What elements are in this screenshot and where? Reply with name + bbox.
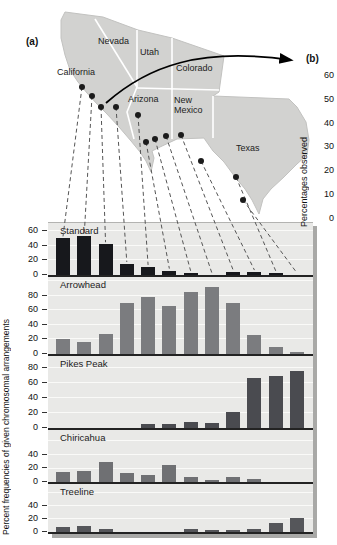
y-tick-mark bbox=[42, 338, 47, 339]
site-dot bbox=[135, 112, 141, 118]
bar bbox=[56, 339, 70, 354]
panel-separator bbox=[48, 275, 313, 277]
bar bbox=[247, 378, 261, 428]
y-tick-mark bbox=[42, 412, 47, 413]
panel-chiricahua: Chiricahua bbox=[48, 430, 313, 482]
bar bbox=[99, 334, 113, 354]
bar bbox=[226, 412, 240, 429]
bar bbox=[77, 236, 91, 275]
right-axis-tick: 30 bbox=[314, 141, 334, 151]
gridline bbox=[48, 505, 313, 506]
bar bbox=[120, 264, 134, 275]
y-tick-mark bbox=[42, 531, 47, 532]
y-tick-mark bbox=[42, 481, 47, 482]
gridline bbox=[48, 518, 313, 519]
state-label-colorado: Colorado bbox=[176, 63, 213, 73]
panel-separator bbox=[48, 482, 313, 484]
y-tick-mark bbox=[42, 230, 47, 231]
gridline bbox=[48, 295, 313, 296]
bar bbox=[120, 303, 134, 354]
panel-treeline: Treeline bbox=[48, 484, 313, 532]
bar bbox=[56, 238, 70, 275]
bar bbox=[269, 376, 283, 429]
dashed-connector bbox=[84, 96, 92, 234]
y-tick-mark bbox=[42, 274, 47, 275]
panel-title-arrowhead: Arrowhead bbox=[60, 279, 106, 290]
panel-title-treeline: Treeline bbox=[60, 486, 94, 497]
chart-block: StandardArrowheadPikes PeakChiricahuaTre… bbox=[0, 222, 337, 545]
panel-b-label: (b) bbox=[306, 53, 319, 64]
bar bbox=[120, 473, 134, 482]
bar-panels: StandardArrowheadPikes PeakChiricahuaTre… bbox=[48, 222, 313, 534]
gridline bbox=[48, 324, 313, 325]
bar bbox=[99, 244, 113, 275]
gridline bbox=[48, 454, 313, 455]
site-dot bbox=[240, 197, 246, 203]
y-tick-mark bbox=[42, 245, 47, 246]
y-tick-mark bbox=[42, 397, 47, 398]
panel-pikes-peak: Pikes Peak bbox=[48, 356, 313, 428]
panel-title-pikes-peak: Pikes Peak bbox=[60, 358, 108, 369]
y-tick-mark bbox=[42, 295, 47, 296]
figure: CaliforniaNevadaUtahColoradoArizonaNew M… bbox=[0, 0, 337, 545]
bar bbox=[141, 475, 155, 482]
panel-separator bbox=[48, 532, 313, 534]
bar bbox=[269, 347, 283, 354]
bar bbox=[162, 465, 176, 482]
state-label-nevada: Nevada bbox=[98, 36, 129, 46]
left-axis-title-text: Percent frequencies of given chromosomal… bbox=[1, 319, 11, 535]
state-label-california: California bbox=[57, 67, 95, 77]
site-dot bbox=[163, 133, 169, 139]
right-axis-tick: 0 bbox=[314, 213, 334, 223]
state-label-arizona: Arizona bbox=[128, 94, 159, 104]
panel-title-standard: Standard bbox=[60, 225, 99, 236]
y-tick-mark bbox=[42, 324, 47, 325]
bar bbox=[226, 303, 240, 354]
y-tick-mark bbox=[42, 467, 47, 468]
site-dot bbox=[178, 132, 184, 138]
bar bbox=[269, 523, 283, 532]
bar bbox=[99, 462, 113, 482]
site-dot bbox=[152, 136, 158, 142]
y-tick-mark bbox=[42, 382, 47, 383]
state-label-utah: Utah bbox=[140, 47, 159, 57]
bar bbox=[141, 267, 155, 275]
panel-standard: Standard bbox=[48, 223, 313, 275]
right-axis-tick: 20 bbox=[314, 165, 334, 175]
state-label-texas: Texas bbox=[236, 143, 260, 153]
right-axis-tick: 60 bbox=[314, 70, 334, 80]
bar bbox=[162, 306, 176, 354]
right-axis-tick: 50 bbox=[314, 94, 334, 104]
bar bbox=[77, 471, 91, 482]
left-axis-title: Percent frequencies of given chromosomal… bbox=[1, 228, 11, 535]
bar bbox=[56, 472, 70, 482]
y-tick-mark bbox=[42, 427, 47, 428]
right-axis-tick: 40 bbox=[314, 118, 334, 128]
site-dot bbox=[143, 139, 149, 145]
bar bbox=[290, 518, 304, 532]
y-tick-mark bbox=[42, 353, 47, 354]
gridline bbox=[48, 468, 313, 469]
y-tick-mark bbox=[42, 505, 47, 506]
bar bbox=[184, 292, 198, 354]
right-axis-title: Percentages observed bbox=[299, 97, 309, 227]
gridline bbox=[48, 309, 313, 310]
y-tick-mark bbox=[42, 454, 47, 455]
bar bbox=[77, 342, 91, 354]
site-dot bbox=[113, 104, 119, 110]
site-dot bbox=[198, 158, 204, 164]
site-dot bbox=[233, 174, 239, 180]
site-dot bbox=[89, 93, 95, 99]
bar bbox=[141, 297, 155, 354]
panel-title-chiricahua: Chiricahua bbox=[60, 432, 105, 443]
y-tick-mark bbox=[42, 259, 47, 260]
bar bbox=[290, 371, 304, 428]
site-dot bbox=[98, 104, 104, 110]
site-dot bbox=[79, 84, 85, 90]
panel-arrowhead: Arrowhead bbox=[48, 277, 313, 354]
bar bbox=[247, 335, 261, 354]
state-label-new-mexico: New Mexico bbox=[174, 95, 220, 115]
panel-separator bbox=[48, 354, 313, 356]
panel-a-label: (a) bbox=[26, 36, 38, 47]
y-tick-mark bbox=[42, 309, 47, 310]
